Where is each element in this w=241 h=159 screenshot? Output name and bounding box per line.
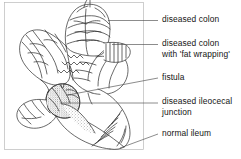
- label-diseased-ileocecal-junction: diseased ileocecal junction: [162, 96, 232, 117]
- label-fistula-line1: fistula: [162, 72, 185, 82]
- label-ileocecal-line2: junction: [162, 107, 232, 118]
- label-fistula: fistula: [162, 72, 185, 83]
- label-fat-wrapping-line1: diseased colon: [162, 38, 219, 48]
- label-diseased-colon: diseased colon: [162, 14, 219, 25]
- label-fat-wrapping-line2: with 'fat wrapping': [162, 49, 230, 60]
- label-diseased-colon-line1: diseased colon: [162, 14, 219, 24]
- label-normal-ileum-line1: normal ileum: [162, 128, 211, 138]
- label-normal-ileum: normal ileum: [162, 128, 211, 139]
- label-ileocecal-line1: diseased ileocecal: [162, 96, 232, 106]
- label-diseased-colon-fat-wrapping: diseased colon with 'fat wrapping': [162, 38, 230, 59]
